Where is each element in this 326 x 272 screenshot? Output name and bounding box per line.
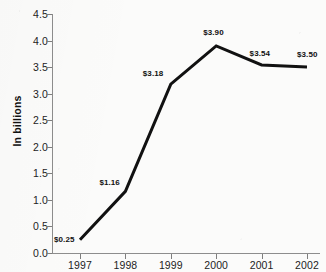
data-point-label: $1.16 — [99, 179, 120, 187]
data-point-label: $0.25 — [54, 236, 75, 244]
data-point-label: $3.50 — [297, 51, 318, 59]
series-line-group — [0, 0, 326, 272]
data-point-label: $3.18 — [143, 70, 164, 78]
data-point-label: $3.90 — [203, 29, 224, 37]
data-point-label: $3.54 — [250, 50, 271, 58]
line-chart: In billions 0.00.51.01.52.02.53.03.54.04… — [0, 0, 326, 272]
series-line — [80, 46, 307, 240]
